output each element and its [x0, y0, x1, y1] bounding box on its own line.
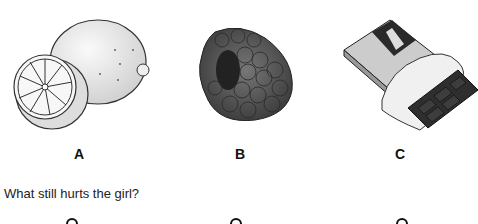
radio-option-c[interactable]: [396, 218, 408, 224]
chocolate-bar-icon: [320, 0, 478, 140]
lemon-icon: [0, 0, 160, 140]
option-a-label: A: [69, 146, 89, 162]
radio-option-b[interactable]: [230, 218, 242, 224]
question-text: What still hurts the girl?: [4, 186, 139, 201]
raspberry-icon: [160, 0, 320, 140]
option-a-image[interactable]: [0, 0, 160, 140]
option-b-label: B: [230, 146, 250, 162]
option-c-image[interactable]: [320, 0, 478, 140]
option-c-label: C: [390, 146, 410, 162]
radio-option-a[interactable]: [66, 218, 78, 224]
option-b-image[interactable]: [160, 0, 320, 140]
